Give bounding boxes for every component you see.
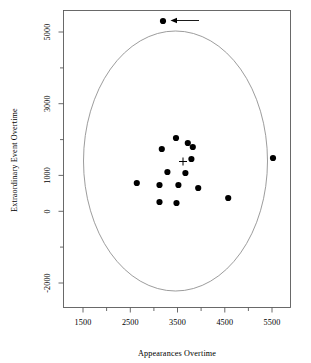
x-tick-label-2500: 2500 bbox=[122, 318, 139, 327]
y-tick-label-3000: 3000 bbox=[43, 95, 52, 112]
x-axis-title: Appearances Overtime bbox=[138, 349, 216, 358]
plot-frame bbox=[64, 11, 291, 308]
data-point bbox=[190, 144, 196, 150]
x-tick-label-5500: 5500 bbox=[264, 318, 281, 327]
x-tick-label-4500: 4500 bbox=[216, 318, 233, 327]
y-tick-label-5000: 5000 bbox=[43, 24, 52, 41]
data-point bbox=[173, 135, 179, 141]
x-tick-label-1500: 1500 bbox=[75, 318, 92, 327]
data-point bbox=[195, 185, 201, 191]
arrow-head-icon bbox=[171, 18, 178, 23]
data-point bbox=[160, 18, 166, 24]
data-point bbox=[182, 170, 188, 176]
outlier-arrow-annotation bbox=[171, 18, 200, 23]
y-tick-label-1000: 1000 bbox=[43, 167, 52, 184]
plot-canvas: 1500 2500 3500 4500 5500 Appearances Ove… bbox=[0, 0, 311, 363]
data-point bbox=[164, 169, 170, 175]
data-points-group bbox=[134, 18, 276, 206]
data-point bbox=[225, 195, 231, 201]
y-tick-label-minus2000: -2000 bbox=[43, 273, 52, 293]
data-point bbox=[175, 182, 181, 188]
data-point bbox=[159, 146, 165, 152]
data-point bbox=[156, 199, 162, 205]
data-point bbox=[173, 200, 179, 206]
x-axis-tick-labels: 1500 2500 3500 4500 5500 bbox=[75, 318, 281, 327]
scatter-plot-figure: 1500 2500 3500 4500 5500 Appearances Ove… bbox=[0, 0, 311, 363]
x-tick-label-3500: 3500 bbox=[169, 318, 186, 327]
y-axis-title: Extraordinary Event Overtime bbox=[10, 108, 19, 212]
data-point bbox=[188, 156, 194, 162]
y-axis-tick-labels: 5000 3000 1000 0 -2000 bbox=[43, 24, 52, 293]
y-tick-label-0: 0 bbox=[43, 209, 52, 213]
x-axis-ticks bbox=[83, 308, 272, 313]
confidence-ellipse bbox=[84, 31, 268, 291]
data-point bbox=[156, 182, 162, 188]
data-point bbox=[270, 155, 276, 161]
y-axis-ticks bbox=[59, 32, 64, 283]
data-point bbox=[134, 180, 140, 186]
data-point bbox=[185, 140, 191, 146]
centroid-marker bbox=[179, 158, 187, 166]
